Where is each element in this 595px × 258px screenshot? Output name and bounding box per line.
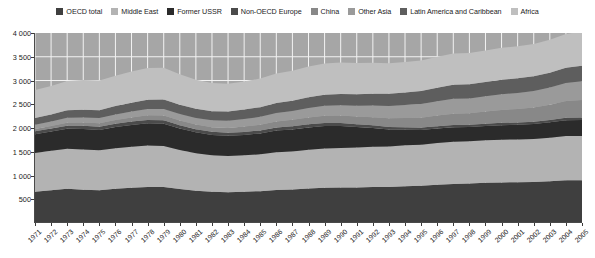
- x-axis-tick-label: 1973: [59, 228, 75, 244]
- x-axis-tick-label: 1980: [171, 228, 187, 244]
- x-axis-tick-mark: [115, 223, 116, 226]
- legend-item[interactable]: China: [311, 7, 340, 16]
- x-axis-tick-label: 1997: [445, 228, 461, 244]
- x-axis-tick-label: 1975: [91, 228, 107, 244]
- x-axis-tick-label: 1996: [429, 228, 445, 244]
- x-axis-tick-mark: [132, 223, 133, 226]
- y-axis-tick-label: 1 500: [13, 147, 31, 156]
- x-axis-tick-mark: [260, 223, 261, 226]
- y-axis-tick-label: 2 000: [13, 124, 31, 133]
- x-axis-tick-mark: [485, 223, 486, 226]
- x-axis-tick-label: 1971: [26, 228, 42, 244]
- x-axis-tick-mark: [566, 223, 567, 226]
- x-axis-tick-label: 2005: [573, 228, 589, 244]
- legend-label: Middle East: [121, 7, 158, 16]
- x-axis-tick-mark: [99, 223, 100, 226]
- x-axis-tick-mark: [67, 223, 68, 226]
- x-axis: 1971197219731974197519761977197819791980…: [35, 223, 582, 258]
- x-axis-tick-mark: [421, 223, 422, 226]
- x-axis-tick-label: 1976: [107, 228, 123, 244]
- x-axis-tick-label: 1998: [461, 228, 477, 244]
- legend-swatch-icon: [111, 8, 118, 15]
- x-axis-tick-mark: [405, 223, 406, 226]
- y-axis-tick-label: 500: [19, 195, 31, 204]
- legend-swatch-icon: [56, 8, 63, 15]
- x-axis-tick-mark: [212, 223, 213, 226]
- x-axis-tick-label: 1989: [316, 228, 332, 244]
- x-axis-tick-mark: [469, 223, 470, 226]
- x-axis-tick-mark: [357, 223, 358, 226]
- legend-swatch-icon: [311, 8, 318, 15]
- x-axis-tick-label: 1995: [413, 228, 429, 244]
- x-axis-tick-label: 2004: [557, 228, 573, 244]
- chart-legend: OECD totalMiddle EastFormer USSRNon-OECD…: [0, 0, 595, 22]
- x-axis-tick-mark: [534, 223, 535, 226]
- stacked-area-svg: [35, 33, 582, 223]
- stacked-area-chart-figure: OECD totalMiddle EastFormer USSRNon-OECD…: [0, 0, 595, 258]
- legend-swatch-icon: [231, 8, 238, 15]
- x-axis-tick-mark: [83, 223, 84, 226]
- legend-swatch-icon: [167, 8, 174, 15]
- legend-label: Former USSR: [177, 7, 222, 16]
- x-axis-tick-label: 1972: [43, 228, 59, 244]
- x-axis-tick-label: 1988: [300, 228, 316, 244]
- x-axis-tick-label: 1981: [187, 228, 203, 244]
- x-axis-tick-label: 1984: [236, 228, 252, 244]
- x-axis-tick-label: 1982: [203, 228, 219, 244]
- y-axis: 4 0003 5003 0002 5002 0001 5001 000500: [0, 33, 35, 223]
- x-axis-tick-mark: [582, 223, 583, 226]
- x-axis-tick-mark: [518, 223, 519, 226]
- x-axis-tick-label: 1999: [477, 228, 493, 244]
- x-axis-tick-label: 2000: [493, 228, 509, 244]
- legend-swatch-icon: [511, 8, 518, 15]
- x-axis-tick-label: 1986: [268, 228, 284, 244]
- y-axis-tick-label: 1 000: [13, 171, 31, 180]
- x-axis-tick-label: 1985: [252, 228, 268, 244]
- legend-label: Africa: [521, 7, 539, 16]
- legend-item[interactable]: Latin America and Caribbean: [400, 7, 501, 16]
- x-axis-tick-label: 1992: [364, 228, 380, 244]
- y-axis-tick-label: 3 000: [13, 76, 31, 85]
- x-axis-tick-mark: [292, 223, 293, 226]
- x-axis-tick-mark: [453, 223, 454, 226]
- x-axis-tick-label: 1983: [219, 228, 235, 244]
- x-axis-tick-mark: [389, 223, 390, 226]
- x-axis-tick-label: 1991: [348, 228, 364, 244]
- x-axis-tick-label: 2001: [509, 228, 525, 244]
- x-axis-tick-mark: [437, 223, 438, 226]
- x-axis-tick-mark: [196, 223, 197, 226]
- x-axis-tick-label: 1990: [332, 228, 348, 244]
- x-axis-tick-mark: [373, 223, 374, 226]
- legend-item[interactable]: Non-OECD Europe: [231, 7, 302, 16]
- x-axis-tick-mark: [228, 223, 229, 226]
- x-axis-tick-mark: [341, 223, 342, 226]
- legend-item[interactable]: Other Asia: [348, 7, 391, 16]
- legend-label: Non-OECD Europe: [241, 7, 302, 16]
- x-axis-tick-mark: [325, 223, 326, 226]
- legend-item[interactable]: Former USSR: [167, 7, 222, 16]
- plot-area: [35, 33, 582, 223]
- legend-item[interactable]: Africa: [511, 7, 539, 16]
- x-axis-tick-label: 2002: [525, 228, 541, 244]
- x-axis-tick-label: 1994: [396, 228, 412, 244]
- legend-swatch-icon: [400, 8, 407, 15]
- y-axis-tick-label: 2 500: [13, 100, 31, 109]
- legend-label: Other Asia: [358, 7, 391, 16]
- y-axis-tick-label: 4 000: [13, 29, 31, 38]
- x-axis-tick-mark: [164, 223, 165, 226]
- x-axis-tick-mark: [180, 223, 181, 226]
- x-axis-tick-label: 1974: [75, 228, 91, 244]
- x-axis-tick-mark: [502, 223, 503, 226]
- legend-label: Latin America and Caribbean: [410, 7, 501, 16]
- legend-label: OECD total: [66, 7, 102, 16]
- y-axis-tick-label: 3 500: [13, 52, 31, 61]
- x-axis-tick-label: 1987: [284, 228, 300, 244]
- legend-item[interactable]: Middle East: [111, 7, 158, 16]
- x-axis-tick-label: 1978: [139, 228, 155, 244]
- x-axis-tick-mark: [35, 223, 36, 226]
- legend-item[interactable]: OECD total: [56, 7, 102, 16]
- x-axis-tick-mark: [309, 223, 310, 226]
- legend-label: China: [321, 7, 340, 16]
- x-axis-tick-mark: [244, 223, 245, 226]
- x-axis-tick-label: 1993: [380, 228, 396, 244]
